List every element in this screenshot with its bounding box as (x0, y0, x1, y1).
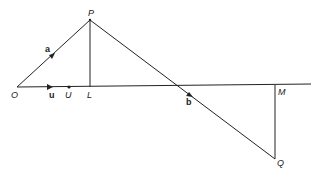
vector-diagram: O P L U M Q a u b (0, 0, 317, 177)
point-p-dot (89, 19, 91, 21)
label-vector-u: u (49, 90, 55, 100)
label-u-point: U (65, 90, 72, 100)
label-m: M (278, 87, 286, 97)
label-p: P (88, 8, 94, 18)
label-l: L (87, 90, 92, 100)
label-vector-a: a (45, 44, 51, 54)
point-u-dot (67, 85, 70, 88)
line-pq (90, 20, 275, 159)
label-o: O (11, 90, 18, 100)
baseline (17, 84, 311, 87)
label-vector-b: b (186, 97, 192, 107)
label-q: Q (277, 158, 284, 168)
